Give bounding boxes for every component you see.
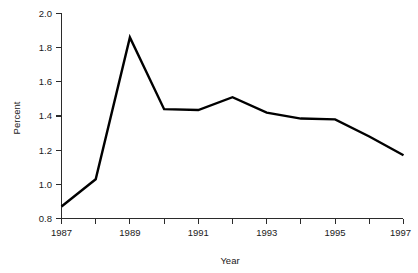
x-tick-label: 1991 (188, 227, 209, 238)
y-tick-label: 1.8 (39, 42, 52, 53)
line-chart: 2.0 1.8 1.6 1.4 1.2 1.0 0.8 1987 1989 (0, 0, 418, 273)
x-tick-label: 1987 (51, 227, 72, 238)
y-tick-label: 1.0 (39, 179, 52, 190)
chart-canvas: 2.0 1.8 1.6 1.4 1.2 1.0 0.8 1987 1989 (0, 0, 418, 273)
x-tick-label: 1997 (390, 227, 411, 238)
y-tick-label: 2.0 (39, 8, 52, 19)
x-tick-label: 1993 (256, 227, 277, 238)
x-tick-label: 1995 (325, 227, 346, 238)
x-axis-title: Year (220, 255, 239, 266)
y-tick-label: 1.2 (39, 145, 52, 156)
y-tick-label: 0.8 (39, 213, 52, 224)
y-tick-label: 1.6 (39, 76, 52, 87)
y-tick-label: 1.4 (39, 110, 52, 121)
y-axis-title: Percent (11, 101, 22, 134)
x-tick-label: 1989 (119, 227, 140, 238)
